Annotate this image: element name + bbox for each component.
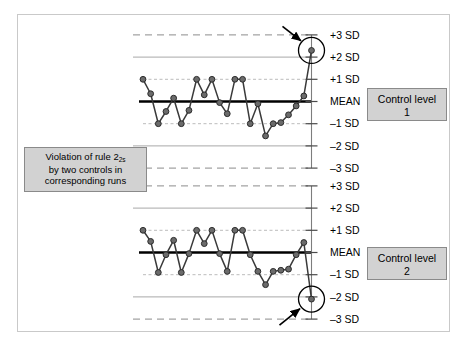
violation-arrow (280, 309, 301, 326)
data-point-18 (278, 267, 284, 273)
legend-level-1-line-2: 1 (404, 106, 410, 118)
violation-arrow (283, 26, 302, 40)
y-tick-label-4: –1 SD (330, 117, 360, 129)
data-point-4 (171, 237, 177, 243)
legend-level-2-line-1: Control level (378, 252, 436, 264)
annotation-subscript: 2s (119, 156, 126, 163)
y-tick-label-2: +1 SD (330, 73, 360, 85)
data-point-1 (148, 239, 154, 245)
rule-violation-annotation: Violation of rule 22s by two controls in… (24, 147, 147, 192)
data-point-2 (155, 270, 161, 276)
data-point-15 (255, 101, 261, 107)
data-point-3 (163, 109, 169, 115)
data-point-12 (232, 227, 238, 233)
data-point-21 (301, 240, 307, 246)
legend-level-2-line-2: 2 (404, 265, 410, 277)
y-tick-label-6: –3 SD (330, 162, 360, 174)
legend-level-1-line-1: Control level (378, 93, 436, 105)
annotation-line-2: by two controls in (49, 164, 122, 175)
data-point-15 (255, 268, 261, 274)
data-point-20 (293, 252, 299, 258)
data-point-7 (194, 227, 200, 233)
data-series-line (143, 230, 312, 299)
data-point-9 (209, 227, 215, 233)
y-tick-label-1: +2 SD (330, 51, 360, 63)
data-point-12 (232, 76, 238, 82)
data-point-9 (209, 76, 215, 82)
y-tick-label-5: –2 SD (330, 140, 360, 152)
legend-control-level-1: Control level 1 (367, 88, 447, 121)
annotation-line-1: Violation of rule 22s (45, 151, 125, 162)
data-point-8 (201, 241, 207, 247)
data-point-11 (224, 268, 230, 274)
y-tick-label-0: +3 SD (330, 29, 360, 41)
data-point-19 (286, 112, 292, 118)
data-point-7 (194, 76, 200, 82)
chart-control-level-2: +3 SD+2 SD+1 SDMEAN–1 SD–2 SD–3 SD (133, 180, 360, 326)
y-tick-label-3: MEAN (330, 246, 360, 258)
y-tick-label-3: MEAN (330, 95, 360, 107)
annotation-line-3: corresponding runs (45, 175, 126, 186)
data-point-8 (201, 92, 207, 98)
data-point-3 (163, 252, 169, 258)
data-point-13 (240, 76, 246, 82)
y-tick-label-6: –3 SD (330, 313, 360, 325)
data-point-16 (263, 282, 269, 288)
data-point-14 (247, 121, 253, 127)
figure-root: +3 SD+2 SD+1 SDMEAN–1 SD–2 SD–3 SD +3 SD… (0, 0, 467, 345)
data-point-2 (155, 121, 161, 127)
data-point-10 (217, 251, 223, 257)
y-tick-label-2: +1 SD (330, 224, 360, 236)
y-tick-label-4: –1 SD (330, 268, 360, 280)
data-point-6 (186, 107, 192, 113)
data-point-14 (247, 252, 253, 258)
data-point-0 (140, 76, 146, 82)
data-point-17 (270, 268, 276, 274)
data-point-1 (148, 91, 154, 97)
data-point-0 (140, 227, 146, 233)
data-point-17 (270, 121, 276, 127)
y-tick-label-5: –2 SD (330, 291, 360, 303)
chart-control-level-1: +3 SD+2 SD+1 SDMEAN–1 SD–2 SD–3 SD (133, 26, 360, 173)
data-point-22 (309, 48, 315, 54)
data-point-21 (301, 93, 307, 99)
data-point-20 (293, 103, 299, 109)
data-point-5 (178, 270, 184, 276)
data-point-13 (240, 227, 246, 233)
data-point-10 (217, 100, 223, 106)
data-point-5 (178, 121, 184, 127)
y-tick-label-0: +3 SD (330, 180, 360, 192)
data-point-18 (278, 120, 284, 126)
data-series-line (143, 50, 312, 135)
legend-control-level-2: Control level 2 (367, 247, 447, 280)
y-tick-label-1: +2 SD (330, 202, 360, 214)
data-point-16 (263, 133, 269, 139)
data-point-6 (186, 251, 192, 257)
data-point-11 (224, 111, 230, 117)
data-point-19 (286, 266, 292, 272)
data-point-22 (309, 296, 315, 302)
data-point-4 (171, 95, 177, 101)
